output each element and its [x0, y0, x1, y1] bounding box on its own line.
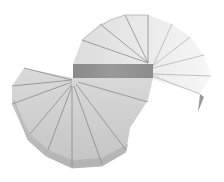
dark-band: [73, 64, 153, 78]
spiral-ramp-render: [0, 0, 224, 182]
lower-fan: [12, 68, 153, 168]
